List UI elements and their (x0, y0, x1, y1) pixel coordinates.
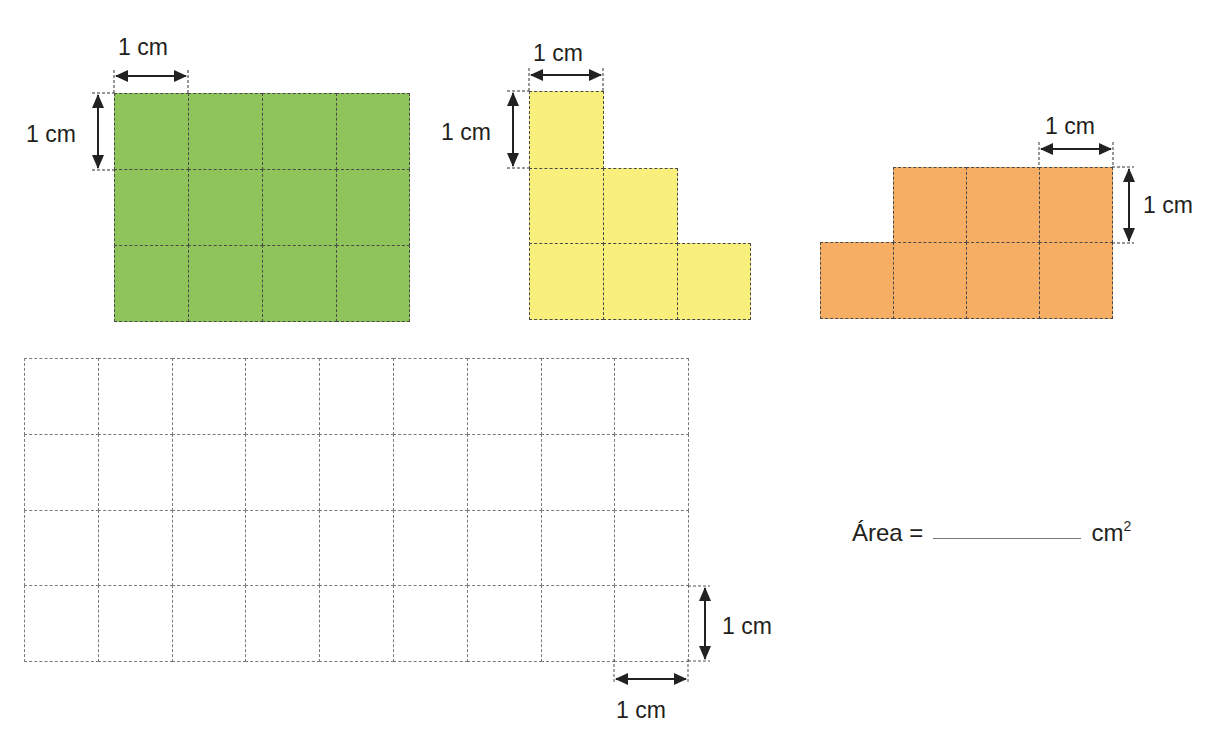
grid-cell (393, 510, 468, 586)
yellow-cell (677, 243, 751, 320)
grid-cell (24, 585, 99, 662)
grid-cell (541, 510, 615, 586)
grid-cell (172, 358, 246, 435)
grid-cell (245, 510, 320, 586)
grid-cell (98, 434, 173, 511)
green-cell (188, 93, 263, 170)
area-answer: Área =cm2 (852, 521, 1131, 545)
yellow-cell (603, 243, 678, 320)
green-cell (188, 169, 263, 246)
grid-cell (393, 434, 468, 511)
grid-height-arrow-icon (686, 584, 718, 664)
area-prefix: Área = (852, 519, 923, 546)
grid-cell (541, 434, 615, 511)
orange-cell (966, 242, 1040, 319)
green-cell (336, 245, 410, 322)
yellow-height-label: 1 cm (441, 121, 491, 144)
green-cell (336, 169, 410, 246)
grid-cell (614, 434, 689, 511)
grid-cell (319, 585, 394, 662)
area-unit: cm (1091, 519, 1123, 546)
grid-width-arrow-icon (612, 659, 692, 689)
grid-cell (614, 585, 689, 662)
green-width-arrow-icon (112, 66, 192, 96)
grid-cell (467, 585, 542, 662)
grid-cell (541, 358, 615, 435)
yellow-cell (529, 243, 604, 320)
green-width-label: 1 cm (118, 36, 168, 59)
yellow-height-arrow-icon (503, 89, 531, 171)
grid-cell (24, 510, 99, 586)
grid-cell (393, 358, 468, 435)
orange-width-label: 1 cm (1045, 115, 1095, 138)
orange-height-arrow-icon (1110, 165, 1142, 246)
green-cell (188, 245, 263, 322)
yellow-cell (529, 91, 604, 169)
grid-cell (319, 434, 394, 511)
grid-cell (172, 510, 246, 586)
green-cell (114, 245, 189, 322)
green-cell (336, 93, 410, 170)
grid-height-label: 1 cm (722, 615, 772, 638)
orange-cell (966, 167, 1040, 243)
green-cell (114, 169, 189, 246)
orange-width-arrow-icon (1037, 138, 1117, 168)
yellow-width-label: 1 cm (533, 42, 583, 65)
orange-cell (1039, 242, 1113, 319)
green-height-arrow-icon (88, 91, 116, 173)
green-cell (262, 169, 337, 246)
grid-cell (172, 585, 246, 662)
grid-cell (24, 434, 99, 511)
grid-cell (319, 358, 394, 435)
area-answer-blank[interactable] (933, 538, 1081, 539)
orange-cell (1039, 167, 1113, 243)
grid-cell (245, 434, 320, 511)
grid-cell (98, 510, 173, 586)
orange-cell (820, 242, 894, 319)
orange-height-label: 1 cm (1143, 194, 1193, 217)
grid-cell (24, 358, 99, 435)
orange-cell (893, 242, 967, 319)
grid-cell (614, 510, 689, 586)
green-height-label: 1 cm (26, 123, 76, 146)
grid-cell (172, 434, 246, 511)
grid-cell (98, 358, 173, 435)
grid-cell (467, 358, 542, 435)
grid-cell (467, 434, 542, 511)
green-cell (262, 93, 337, 170)
yellow-cell (529, 168, 604, 245)
grid-width-label: 1 cm (616, 699, 666, 722)
grid-cell (319, 510, 394, 586)
grid-cell (245, 358, 320, 435)
grid-cell (541, 585, 615, 662)
grid-cell (393, 585, 468, 662)
grid-cell (245, 585, 320, 662)
area-exponent: 2 (1123, 518, 1131, 534)
orange-cell (893, 167, 967, 243)
green-cell (262, 245, 337, 322)
grid-cell (98, 585, 173, 662)
green-cell (114, 93, 189, 170)
yellow-width-arrow-icon (527, 64, 607, 94)
grid-cell (467, 510, 542, 586)
grid-cell (614, 358, 689, 435)
yellow-cell (603, 168, 678, 245)
